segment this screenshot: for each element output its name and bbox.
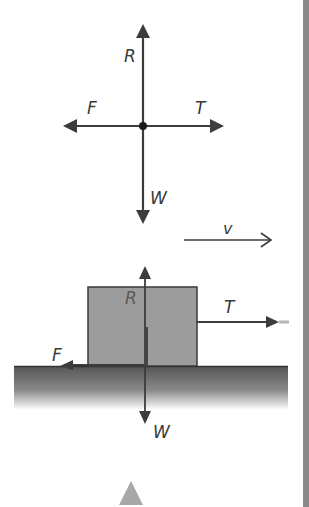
arrow-right-icon bbox=[266, 316, 279, 328]
arrow-up-icon bbox=[139, 266, 151, 279]
arrow-left-icon bbox=[63, 119, 77, 133]
label-T: T bbox=[224, 297, 236, 317]
free-body-diagram: R F T W bbox=[63, 24, 224, 224]
label-F: F bbox=[52, 345, 62, 365]
arrow-down-icon bbox=[139, 411, 151, 424]
arrow-down-icon bbox=[136, 210, 150, 224]
centre-of-mass-dot bbox=[139, 122, 147, 130]
scroll-up-triangle-icon[interactable] bbox=[119, 481, 143, 505]
arrow-right-icon bbox=[210, 119, 224, 133]
block bbox=[88, 287, 197, 366]
ground-surface bbox=[14, 366, 288, 410]
label-v: v bbox=[223, 219, 233, 238]
force-diagram: R F T W v R T F W bbox=[0, 0, 309, 507]
arrow-up-icon bbox=[136, 24, 150, 38]
label-F: F bbox=[87, 98, 97, 118]
label-W: W bbox=[150, 188, 168, 208]
velocity-arrow: v bbox=[184, 219, 271, 247]
label-R: R bbox=[125, 288, 137, 308]
label-T: T bbox=[195, 98, 207, 118]
label-W: W bbox=[153, 422, 171, 442]
block-scene: R T F W bbox=[14, 266, 289, 442]
label-R: R bbox=[124, 46, 136, 66]
page-edge-bar bbox=[303, 0, 309, 507]
